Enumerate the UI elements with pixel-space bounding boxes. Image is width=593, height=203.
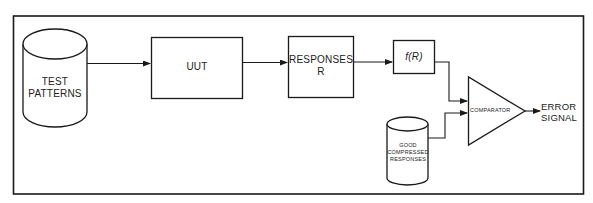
- good-compressed-line3: RESPONSES: [386, 156, 430, 163]
- test-patterns-label: TEST PATTERNS: [23, 76, 87, 99]
- edge-good-to-comparator: [428, 113, 467, 138]
- responses-label: RESPONSES R: [288, 54, 354, 77]
- good-compressed-label: GOOD COMPRESSED RESPONSES: [386, 142, 430, 163]
- uut-label: UUT: [151, 61, 243, 73]
- error-signal-line2: SIGNAL: [541, 113, 581, 124]
- outer-frame: [14, 16, 584, 194]
- comparator-label: COMPARATOR: [470, 107, 520, 113]
- test-patterns-line1: TEST: [23, 76, 87, 88]
- good-compressed-line2: COMPRESSED: [386, 149, 430, 156]
- test-patterns-line2: PATTERNS: [23, 88, 87, 100]
- fr-label: f(R): [393, 51, 435, 63]
- diagram-canvas: [0, 0, 593, 203]
- responses-line2: R: [288, 66, 354, 78]
- edge-fr-to-comparator: [434, 62, 467, 101]
- responses-line1: RESPONSES: [288, 54, 354, 66]
- good-compressed-line1: GOOD: [386, 142, 430, 149]
- error-signal-label: ERROR SIGNAL: [541, 102, 581, 124]
